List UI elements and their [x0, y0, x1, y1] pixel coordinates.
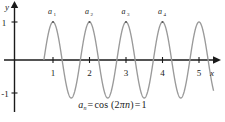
point-label-a4-sub: 4: [164, 12, 167, 17]
x-axis: [4, 56, 221, 64]
point-label-a1-text: a: [48, 7, 52, 16]
point-label-a2-text: a: [85, 7, 89, 16]
point-label-a4: a 4: [158, 7, 167, 17]
x-axis-label: x: [209, 68, 214, 78]
figure-container: y x 1 -1 1 2 3 4 5 a 1 a 2 a 3 a 4 an=co…: [0, 0, 225, 122]
formula-result: 1: [142, 99, 147, 110]
point-label-a4-text: a: [158, 7, 162, 16]
point-label-a3-text: a: [122, 7, 126, 16]
point-label-a3: a 3: [122, 7, 131, 17]
y-tick-label-neg1: -1: [1, 89, 9, 99]
y-axis: [11, 1, 18, 112]
x-tick-label-1: 1: [51, 68, 56, 78]
point-label-a1-sub: 1: [54, 12, 57, 17]
x-tick-label-3: 3: [124, 68, 129, 78]
formula-function: cos (2: [94, 99, 119, 110]
point-label-a1: a 1: [48, 7, 57, 17]
x-tick-label-2: 2: [87, 68, 92, 78]
y-axis-label: y: [4, 2, 9, 12]
formula-equals-2: =: [134, 99, 142, 110]
point-label-a2-sub: 2: [91, 12, 94, 17]
point-label-a3-sub: 3: [127, 12, 130, 17]
x-tick-label-4: 4: [160, 68, 165, 78]
point-label-a2: a 2: [85, 7, 94, 17]
formula-caption: an=cos (2πn)=1: [0, 99, 225, 111]
peak-markers: [52, 21, 164, 23]
x-tick-label-5: 5: [197, 68, 202, 78]
y-tick-label-1: 1: [2, 18, 7, 28]
